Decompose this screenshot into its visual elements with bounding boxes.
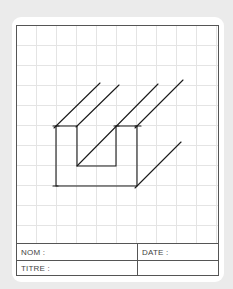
edge-left-outer xyxy=(54,83,100,128)
edge-inner-bottom xyxy=(77,84,158,166)
title-block-divider xyxy=(137,244,138,275)
title-block: NOM : DATE : TITRE : xyxy=(16,243,219,276)
edge-right-outer-top xyxy=(135,80,183,128)
edge-right-outer-bottom xyxy=(135,142,181,188)
title-block-row-2: TITRE : xyxy=(17,261,218,277)
titre-label: TITRE : xyxy=(21,264,50,273)
edge-left-inner xyxy=(76,85,119,127)
front-face-outline xyxy=(56,126,137,186)
title-block-row-1: NOM : DATE : xyxy=(17,244,218,261)
nom-label: NOM : xyxy=(21,248,45,257)
date-label: DATE : xyxy=(142,248,168,257)
